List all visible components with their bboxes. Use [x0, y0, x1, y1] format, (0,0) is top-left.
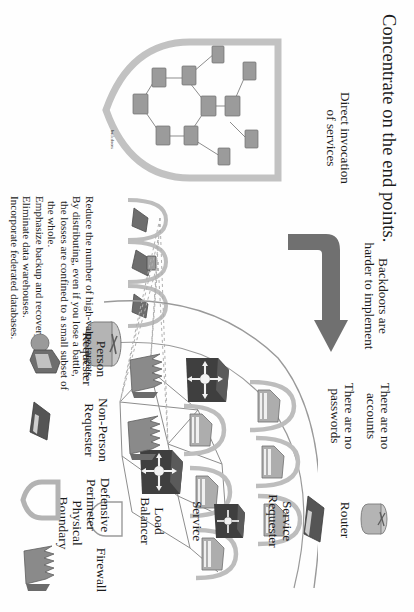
page-title: Concentrate on the end points. [378, 14, 398, 243]
annotation-no-passwords: There are no passwords [328, 370, 356, 462]
firewall-icon [20, 544, 60, 594]
service-requester-icon [296, 492, 330, 550]
label-backdoors-small: backdoors [109, 130, 114, 149]
slide-root: Concentrate on the end points. Direct in… [0, 0, 414, 612]
legend-label-service: Service [190, 492, 204, 550]
legend-label-person-requester: Person Requester [80, 322, 108, 396]
screenshot-canvas: Concentrate on the end points. Direct in… [0, 0, 414, 612]
annotation-no-accounts: There are no accounts [364, 370, 392, 462]
legend-label-load-balancer: Load Balancer [138, 488, 166, 554]
firewall-node-2 [124, 414, 164, 462]
legend-label-non-person-requester: Non-Person Requester [82, 388, 110, 472]
annotation-backdoors: Backdoors are harder to implement [362, 228, 390, 364]
central-network-graph [110, 44, 274, 178]
legend-label-router: Router [338, 492, 352, 548]
non-person-requester-icon [20, 398, 58, 444]
load-balancer-node-1 [176, 352, 232, 408]
service-icon [208, 500, 248, 542]
router-icon [356, 500, 390, 540]
firewall-node-1 [126, 352, 166, 400]
bullet-item: Incorporate federated databases. [8, 196, 21, 392]
person-requester-icon [22, 330, 62, 376]
defensive-perimeter-icon [20, 476, 62, 524]
legend-label-defensive-perimeter: Defensive Perimeter [84, 468, 112, 542]
legend-label-service-requester: Service Requester [266, 482, 294, 560]
annotation-direct-invocation: Direct invocation of services [324, 78, 352, 198]
legend-label-firewall: Firewall [94, 540, 108, 600]
